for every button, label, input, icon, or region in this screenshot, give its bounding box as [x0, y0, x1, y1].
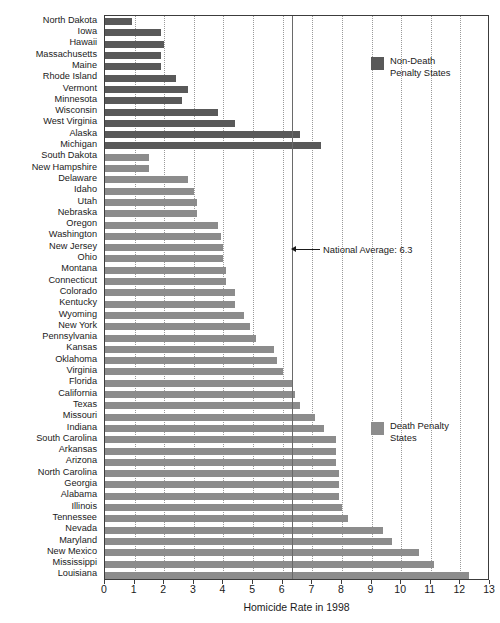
bar-arizona: [105, 459, 336, 466]
bar-row: [105, 378, 488, 389]
bar-virginia: [105, 368, 283, 375]
bar-row: [105, 570, 488, 581]
category-label-mississippi: Mississippi: [53, 557, 97, 568]
bar-louisiana: [105, 572, 469, 579]
bar-montana: [105, 267, 226, 274]
bar-row: [105, 265, 488, 276]
category-label-tennessee: Tennessee: [53, 512, 97, 523]
bar-texas: [105, 402, 300, 409]
bar-arkansas: [105, 448, 336, 455]
legend-label-non-death-line1: Non-Death: [390, 55, 435, 66]
national-average-label: National Average: 6.3: [323, 244, 412, 255]
x-tick-label-3: 3: [190, 583, 196, 595]
legend-label-death-line1: Death Penalty: [390, 420, 449, 431]
bar-nevada: [105, 527, 383, 534]
bar-row: [105, 502, 488, 513]
bar-row: [105, 106, 488, 117]
bar-north-carolina: [105, 470, 339, 477]
bar-row: [105, 355, 488, 366]
x-axis-title: Homicide Rate in 1998: [104, 601, 489, 613]
category-label-new-york: New York: [58, 320, 97, 331]
bar-oklahoma: [105, 357, 277, 364]
bar-delaware: [105, 176, 188, 183]
category-label-utah: Utah: [78, 196, 97, 207]
bar-missouri: [105, 414, 315, 421]
bar-row: [105, 152, 488, 163]
category-label-hawaii: Hawaii: [69, 37, 97, 48]
legend-swatch-non-death: [371, 57, 384, 70]
bar-row: [105, 536, 488, 547]
category-label-missouri: Missouri: [63, 410, 97, 421]
bar-pennsylvania: [105, 335, 256, 342]
national-average-line: [292, 16, 293, 579]
national-average-annotation: National Average: 6.3: [291, 243, 412, 255]
x-tick-label-13: 13: [483, 583, 495, 595]
category-label-north-carolina: North Carolina: [38, 467, 97, 478]
category-axis-labels: North DakotaIowaHawaiiMassachusettsMaine…: [0, 15, 100, 580]
bar-row: [105, 366, 488, 377]
bar-row: [105, 513, 488, 524]
legend-label-death: Death Penalty States: [390, 420, 449, 444]
category-label-virginia: Virginia: [67, 365, 97, 376]
bar-tennessee: [105, 515, 348, 522]
x-tick-label-10: 10: [394, 583, 406, 595]
category-label-louisiana: Louisiana: [58, 568, 97, 579]
bar-north-dakota: [105, 18, 132, 25]
bar-row: [105, 186, 488, 197]
bar-georgia: [105, 481, 339, 488]
homicide-rate-bar-chart: North DakotaIowaHawaiiMassachusettsMaine…: [0, 0, 500, 623]
x-tick-label-5: 5: [249, 583, 255, 595]
bar-vermont: [105, 86, 188, 93]
bar-hawaii: [105, 41, 164, 48]
bar-maryland: [105, 538, 392, 545]
x-tick-label-6: 6: [279, 583, 285, 595]
bar-row: [105, 95, 488, 106]
category-label-massachusetts: Massachusetts: [36, 49, 97, 60]
bar-row: [105, 445, 488, 456]
category-label-minnesota: Minnesota: [55, 94, 97, 105]
category-label-connecticut: Connecticut: [48, 275, 97, 286]
category-label-arizona: Arizona: [66, 455, 97, 466]
category-label-washington: Washington: [49, 229, 97, 240]
bar-row: [105, 208, 488, 219]
bar-wisconsin: [105, 109, 218, 116]
bar-alaska: [105, 131, 300, 138]
category-label-wisconsin: Wisconsin: [55, 105, 97, 116]
bar-row: [105, 231, 488, 242]
bar-row: [105, 400, 488, 411]
bar-row: [105, 118, 488, 129]
x-axis-tick-labels: 012345678910111213: [0, 583, 500, 599]
legend-label-non-death: Non-Death Penalty States: [390, 55, 450, 79]
category-label-indiana: Indiana: [67, 422, 97, 433]
bar-row: [105, 525, 488, 536]
bar-minnesota: [105, 97, 182, 104]
bar-row: [105, 468, 488, 479]
bar-new-jersey: [105, 244, 223, 251]
bar-rows: [105, 16, 488, 579]
category-label-oregon: Oregon: [66, 218, 97, 229]
bar-washington: [105, 233, 221, 240]
category-label-georgia: Georgia: [64, 478, 97, 489]
category-label-alabama: Alabama: [61, 489, 97, 500]
bar-row: [105, 321, 488, 332]
category-label-pennsylvania: Pennsylvania: [42, 331, 97, 342]
bar-kansas: [105, 346, 274, 353]
x-tick-label-9: 9: [368, 583, 374, 595]
bar-kentucky: [105, 301, 235, 308]
bar-mississippi: [105, 561, 434, 568]
bar-utah: [105, 199, 197, 206]
bar-row: [105, 219, 488, 230]
category-label-florida: Florida: [69, 376, 97, 387]
x-tick-label-1: 1: [131, 583, 137, 595]
bar-row: [105, 558, 488, 569]
category-label-nebraska: Nebraska: [58, 207, 97, 218]
bar-west-virginia: [105, 120, 235, 127]
bar-wyoming: [105, 312, 244, 319]
bar-row: [105, 479, 488, 490]
bar-row: [105, 163, 488, 174]
bar-row: [105, 16, 488, 27]
bar-row: [105, 140, 488, 151]
category-label-south-carolina: South Carolina: [36, 433, 97, 444]
x-tick-label-0: 0: [101, 583, 107, 595]
category-label-new-jersey: New Jersey: [49, 241, 97, 252]
